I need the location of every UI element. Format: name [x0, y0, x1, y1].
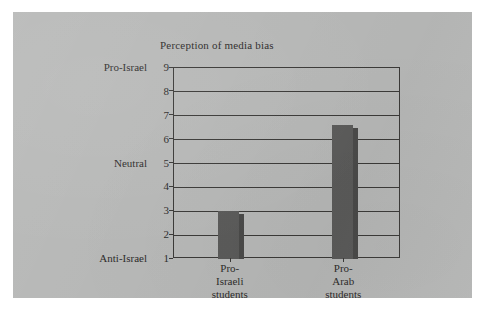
x-axis-label-line: Arab: [300, 275, 386, 288]
y-axis-category-labels: Pro-IsraelNeutralAnti-Israel: [71, 67, 147, 258]
gridline: [174, 211, 399, 212]
x-axis-label-line: Israeli: [187, 275, 273, 288]
y-axis-tick-label: 3: [155, 204, 169, 216]
x-axis-label-line: Pro-: [187, 262, 273, 275]
y-axis-tick-label: 7: [155, 109, 169, 121]
y-axis-tick-label: 9: [155, 61, 169, 73]
x-axis-label-line: students: [187, 288, 273, 301]
x-axis-label-line: Pro-: [300, 262, 386, 275]
bar: [332, 125, 353, 259]
figure-container: Perception of media bias Pro-IsraelNeutr…: [0, 0, 487, 314]
bar-shadow: [239, 214, 244, 259]
gridline: [174, 163, 399, 164]
y-axis-category-label: Neutral: [71, 157, 147, 169]
y-axis-tick-label: 5: [155, 157, 169, 169]
gridline: [174, 235, 399, 236]
gridline: [174, 139, 399, 140]
y-axis-category-label: Pro-Israel: [71, 61, 147, 73]
y-axis-tick-label: 6: [155, 133, 169, 145]
y-axis-category-label: Anti-Israel: [71, 252, 147, 264]
x-axis-category-label: Pro-Arabstudents: [300, 262, 386, 301]
gridline: [174, 187, 399, 188]
bar: [218, 211, 239, 259]
y-axis-tick-label: 2: [155, 228, 169, 240]
x-axis-label-line: students: [300, 288, 386, 301]
x-axis-category-label: Pro-Israelistudents: [187, 262, 273, 301]
y-axis-tick-label: 4: [155, 180, 169, 192]
gridline: [174, 115, 399, 116]
gridline: [174, 91, 399, 92]
plot-area: [173, 67, 400, 258]
chart-panel: Perception of media bias Pro-IsraelNeutr…: [13, 12, 472, 298]
y-axis-tick-label: 8: [155, 85, 169, 97]
y-axis-tick-label: 1: [155, 252, 169, 264]
chart-title: Perception of media bias: [160, 39, 274, 51]
bar-shadow: [353, 128, 358, 259]
y-axis-tick-labels: 123456789: [151, 67, 169, 258]
